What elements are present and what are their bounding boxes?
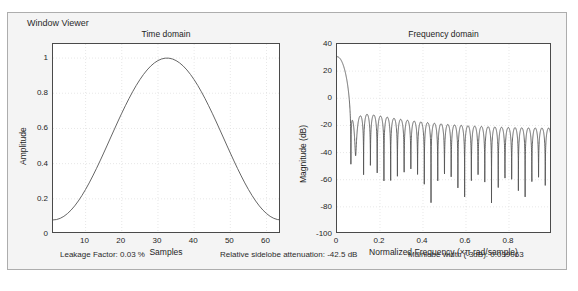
frequency-domain-xtick: 0.6	[459, 236, 470, 245]
frequency-domain-ytick: 20	[292, 66, 332, 75]
time-domain-xtick: 10	[80, 236, 89, 245]
time-domain-plot[interactable]: Time domain Amplitude Samples 00.20.40.6…	[52, 43, 280, 233]
frequency-domain-plot[interactable]: Frequency domain Magnitude (dB) Normaliz…	[336, 43, 551, 233]
frequency-domain-axes	[336, 43, 551, 233]
time-domain-xtick: 30	[152, 236, 161, 245]
time-domain-title: Time domain	[52, 29, 280, 39]
frequency-domain-title: Frequency domain	[336, 29, 551, 39]
leakage-factor-label: Leakage Factor: 0.03 %	[60, 250, 145, 259]
frequency-domain-ytick: 0	[292, 93, 332, 102]
frequency-domain-ytick: 40	[292, 39, 332, 48]
frequency-domain-xtick: 0	[334, 236, 338, 245]
frequency-domain-xtick: 0.2	[373, 236, 384, 245]
time-domain-xtick: 20	[116, 236, 125, 245]
panel-title: Window Viewer	[24, 18, 92, 28]
frequency-domain-ytick: -80	[292, 201, 332, 210]
frequency-domain-ytick: -100	[292, 229, 332, 238]
mainlobe-width-label: Mainlobe width (-3dB): 0.039063	[408, 250, 524, 259]
time-domain-xtick: 60	[261, 236, 270, 245]
time-domain-ytick: 0	[8, 229, 48, 238]
time-domain-xtick: 50	[225, 236, 234, 245]
frequency-domain-ytick: -60	[292, 174, 332, 183]
window-viewer-app: Window Viewer Time domain Amplitude Samp…	[0, 0, 578, 291]
time-domain-ytick: 0.6	[8, 123, 48, 132]
time-domain-ytick: 0.8	[8, 88, 48, 97]
frequency-domain-ytick: -40	[292, 147, 332, 156]
time-domain-canvas	[53, 44, 280, 233]
frequency-domain-ytick: -20	[292, 120, 332, 129]
window-viewer-panel: Window Viewer Time domain Amplitude Samp…	[7, 12, 567, 270]
time-domain-ytick: 0.2	[8, 193, 48, 202]
frequency-domain-xtick: 0.8	[502, 236, 513, 245]
time-domain-ytick: 1	[8, 53, 48, 62]
frequency-domain-xtick: 0.4	[416, 236, 427, 245]
time-domain-axes	[52, 43, 280, 233]
window-metrics-row: Leakage Factor: 0.03 % Relative sidelobe…	[8, 250, 566, 262]
frequency-domain-canvas	[337, 44, 551, 233]
time-domain-ytick: 0.4	[8, 158, 48, 167]
time-domain-xtick: 40	[189, 236, 198, 245]
relative-sidelobe-attenuation-label: Relative sidelobe attenuation: -42.5 dB	[220, 250, 357, 259]
